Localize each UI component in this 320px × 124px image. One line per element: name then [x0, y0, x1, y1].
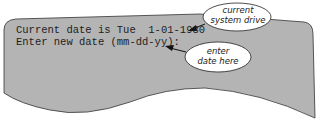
- enter-date-prompt: Enter new date (mm-dd-yy):: [16, 36, 180, 48]
- screen-shape: [0, 0, 320, 124]
- current-date-line: Current date is Tue 1-01-1980: [16, 24, 205, 36]
- callout-text: system drive: [206, 15, 270, 25]
- callout-text: enter: [188, 46, 248, 56]
- callout-text: current: [206, 5, 270, 15]
- callout-enter-date-here: enter date here: [188, 46, 248, 66]
- callout-current-system-drive: current system drive: [206, 5, 270, 25]
- callout-text: date here: [188, 56, 248, 66]
